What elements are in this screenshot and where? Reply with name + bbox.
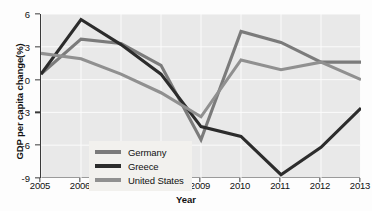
plot-area: GermanyGreeceUnited States — [40, 14, 360, 178]
x-tick-mark — [279, 178, 280, 182]
legend-label: Germany — [128, 147, 166, 158]
x-tick-mark — [39, 178, 40, 182]
x-tick-mark — [79, 178, 80, 182]
series-line-united-states — [41, 53, 361, 116]
legend-label: United States — [128, 175, 184, 186]
legend-swatch-icon — [95, 164, 121, 167]
x-tick-label: 2013 — [340, 180, 372, 191]
legend-label: Greece — [128, 161, 159, 172]
chart-legend: GermanyGreeceUnited States — [89, 141, 192, 191]
series-line-germany — [41, 31, 361, 139]
legend-item-united-states: United States — [95, 173, 184, 187]
legend-swatch-icon — [95, 150, 121, 153]
legend-item-germany: Germany — [95, 145, 184, 159]
legend-item-greece: Greece — [95, 159, 184, 173]
x-tick-mark — [319, 178, 320, 182]
x-tick-mark — [239, 178, 240, 182]
x-axis-title: Year — [0, 194, 372, 205]
x-tick-mark — [359, 178, 360, 182]
legend-swatch-icon — [95, 178, 121, 181]
y-axis-title: GDP per capita change(%) — [14, 27, 25, 177]
y-tick-label: 6 — [2, 9, 30, 20]
x-tick-mark — [199, 178, 200, 182]
gdp-per-capita-line-chart: 630-3-6-9 200520062007200820092010201120… — [0, 0, 372, 211]
